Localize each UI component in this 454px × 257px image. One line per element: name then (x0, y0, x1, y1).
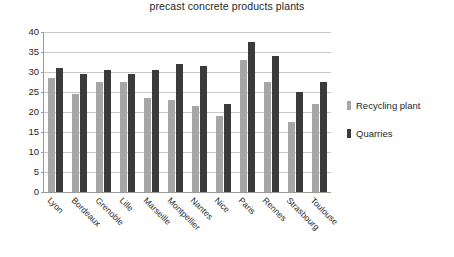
x-axis-label: Paris (237, 196, 257, 216)
y-axis-tick-label: 0 (34, 187, 39, 197)
chart-title: Average transport distance (km) of aggre… (0, 0, 454, 12)
bar (48, 78, 55, 192)
legend-label: Recycling plant (356, 100, 420, 111)
bar-group (44, 32, 68, 192)
bar-groups (44, 32, 331, 192)
bar-group (140, 32, 164, 192)
bar-group (116, 32, 140, 192)
bar (128, 74, 135, 192)
bar (168, 100, 175, 192)
bar-group (92, 32, 116, 192)
plot-area: 0510152025303540 (43, 32, 331, 193)
y-axis-tick-label: 5 (34, 167, 39, 177)
bar (200, 66, 207, 192)
bar-group (259, 32, 283, 192)
bar (288, 122, 295, 192)
legend-swatch-icon (347, 101, 351, 110)
bar (72, 94, 79, 192)
legend-swatch-icon (347, 129, 351, 138)
x-axis-label-slot: Grenoble (91, 194, 115, 256)
bar-group (188, 32, 212, 192)
x-axis-label: Toulouse (309, 196, 340, 227)
y-axis-tick-label: 35 (28, 47, 39, 57)
x-axis-label: Nice (213, 196, 232, 215)
y-axis-tick-label: 20 (28, 107, 39, 117)
x-axis-label: Lille (117, 196, 134, 213)
x-axis-label-slot: Toulouse (306, 194, 330, 256)
x-axis-label-slot: Marseille (139, 194, 163, 256)
bar-group (307, 32, 331, 192)
bar (264, 82, 271, 192)
y-axis-tick-label: 25 (28, 87, 39, 97)
bar (152, 70, 159, 192)
chart-legend: Recycling plantQuarries (347, 100, 451, 156)
x-axis-label-slot: Paris (234, 194, 258, 256)
bar (240, 60, 247, 192)
y-axis-tick-mark (41, 192, 44, 193)
bar (176, 64, 183, 192)
x-axis-label-slot: Montpellier (163, 194, 187, 256)
x-axis-labels: LyonBordeauxGrenobleLilleMarseilleMontpe… (43, 194, 330, 256)
bar-group (283, 32, 307, 192)
chart-title-line-2: precast concrete products plants (0, 0, 454, 12)
bar-group (164, 32, 188, 192)
bar (272, 56, 279, 192)
bar (320, 82, 327, 192)
bar (80, 74, 87, 192)
y-axis-tick-label: 40 (28, 27, 39, 37)
y-axis-tick-label: 15 (28, 127, 39, 137)
y-axis-tick-label: 30 (28, 67, 39, 77)
x-axis-label-slot: Lille (115, 194, 139, 256)
bar-group (235, 32, 259, 192)
bar (216, 116, 223, 192)
bar-group (211, 32, 235, 192)
bar (312, 104, 319, 192)
legend-item[interactable]: Quarries (347, 128, 451, 139)
bar-chart: Average transport distance (km) of aggre… (0, 0, 454, 257)
bar (56, 68, 63, 192)
x-axis-label: Lyon (46, 196, 65, 215)
x-axis-label-slot: Lyon (43, 194, 67, 256)
bar (224, 104, 231, 192)
x-axis-label-slot: Bordeaux (67, 194, 91, 256)
legend-label: Quarries (356, 128, 392, 139)
bar (192, 106, 199, 192)
x-axis-label-slot: Strasbourg (282, 194, 306, 256)
bar (104, 70, 111, 192)
bar (248, 42, 255, 192)
bar (120, 82, 127, 192)
x-axis-label-slot: Nice (210, 194, 234, 256)
legend-item[interactable]: Recycling plant (347, 100, 451, 111)
bar (144, 98, 151, 192)
x-axis-label-slot: Rennes (258, 194, 282, 256)
bar (296, 92, 303, 192)
bar (96, 82, 103, 192)
bar-group (68, 32, 92, 192)
y-axis-tick-label: 10 (28, 147, 39, 157)
x-axis-label-slot: Nantes (187, 194, 211, 256)
